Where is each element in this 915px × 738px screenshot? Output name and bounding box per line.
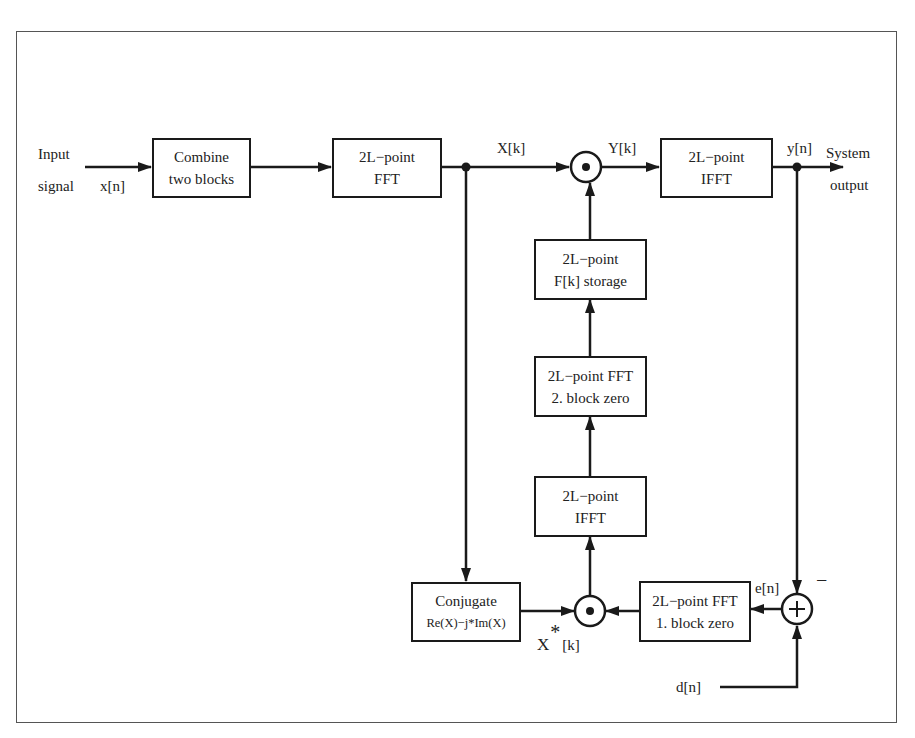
combine-blocks-block: Combine two blocks <box>152 138 251 198</box>
block-label: Re(X)−j*Im(X) <box>426 612 505 634</box>
fk-storage-block: 2L−point F[k] storage <box>534 239 647 300</box>
system-output-label: System <box>826 145 870 162</box>
Yk-label: Y[k] <box>608 140 636 157</box>
minus-sign-label: − <box>816 572 827 589</box>
block-label: IFFT <box>575 507 606 529</box>
block-label: Conjugate <box>435 590 497 612</box>
ifft-output-block: 2L−point IFFT <box>660 138 773 198</box>
block-label: 2L−point <box>563 485 619 507</box>
sum-icon <box>782 594 812 624</box>
block-label: 2L−point FFT <box>652 590 738 612</box>
x-conj-base: X <box>537 635 549 654</box>
fft-block2-zero-block: 2L−point FFT 2. block zero <box>534 356 647 417</box>
xn-label: x[n] <box>100 178 125 195</box>
block-label: FFT <box>374 168 400 190</box>
block-label: two blocks <box>169 168 234 190</box>
x-conj-index: [k] <box>562 637 580 653</box>
block-label: 2L−point <box>563 248 619 270</box>
block-label: 2L−point FFT <box>548 365 634 387</box>
Xk-label: X[k] <box>497 140 525 157</box>
x-conj-star: * <box>550 621 560 643</box>
dn-label: d[n] <box>676 679 701 696</box>
input-signal-label-2: signal <box>38 178 74 195</box>
block-label: 2. block zero <box>552 387 630 409</box>
block-label: F[k] storage <box>554 270 627 292</box>
block-label: 2L−point <box>359 146 415 168</box>
multiply-top-icon <box>571 152 601 182</box>
x-conjugate-label: X*[k] <box>537 635 580 654</box>
block-label: Combine <box>174 146 229 168</box>
ifft-middle-block: 2L−point IFFT <box>534 476 647 537</box>
input-signal-label: Input <box>38 146 70 163</box>
en-label: e[n] <box>755 580 779 597</box>
fft-block: 2L−point FFT <box>332 138 442 198</box>
multiply-bottom-icon <box>575 596 605 626</box>
conjugate-block: Conjugate Re(X)−j*Im(X) <box>411 582 521 642</box>
yn-label: y[n] <box>787 140 812 157</box>
block-label: IFFT <box>701 168 732 190</box>
junction-dot-yn <box>793 163 802 172</box>
junction-dot-xk <box>462 163 471 172</box>
fft-block1-zero-block: 2L−point FFT 1. block zero <box>639 581 751 642</box>
block-label: 2L−point <box>689 146 745 168</box>
block-label: 1. block zero <box>656 612 734 634</box>
system-output-label-2: output <box>830 177 868 194</box>
